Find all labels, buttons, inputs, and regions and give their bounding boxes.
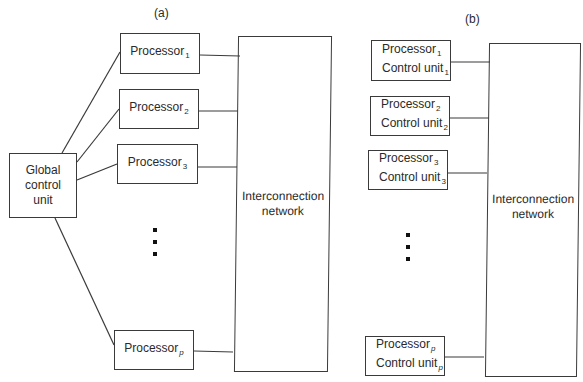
processor-label: Processor3 bbox=[128, 155, 187, 174]
processor-p-box: Processorp bbox=[114, 330, 194, 370]
control-unit-label: Control unit1 bbox=[382, 61, 449, 80]
processor-2-box: Processor2 bbox=[119, 89, 199, 129]
panel-a-caption: (a) bbox=[154, 6, 169, 20]
processor-label: Processorp bbox=[124, 341, 183, 360]
global-control-line2: control bbox=[25, 178, 61, 193]
interconnection-network-b: Interconnection network bbox=[485, 43, 581, 377]
network-label: Interconnection network bbox=[237, 189, 329, 219]
control-unit-label: Control unit2 bbox=[381, 116, 448, 135]
processor-cu-3-box: Processor3 Control unit3 bbox=[368, 150, 448, 190]
global-control-line3: unit bbox=[33, 193, 52, 208]
global-control-unit: Global control unit bbox=[9, 153, 77, 218]
network-label-line1: Interconnection bbox=[488, 192, 578, 207]
ellipsis-dots bbox=[406, 233, 410, 269]
network-label: Interconnection network bbox=[488, 192, 578, 222]
processor-label: Processor2 bbox=[381, 97, 440, 116]
processor-1-box: Processor1 bbox=[120, 33, 200, 74]
panel-b-caption: (b) bbox=[465, 12, 480, 26]
processor-cu-1-box: Processor1 Control unit1 bbox=[371, 40, 451, 81]
processor-3-box: Processor3 bbox=[117, 144, 198, 184]
network-label-line1: Interconnection bbox=[237, 189, 329, 204]
processor-cu-2-box: Processor2 Control unit2 bbox=[370, 96, 450, 136]
processor-label: Processor1 bbox=[130, 44, 189, 63]
processor-label: Processorp bbox=[376, 337, 435, 356]
processor-label: Processor1 bbox=[382, 42, 441, 61]
processor-label: Processor2 bbox=[129, 100, 188, 119]
network-label-line2: network bbox=[237, 204, 329, 219]
control-unit-label: Control unitp bbox=[376, 356, 443, 375]
interconnection-network-a: Interconnection network bbox=[234, 36, 332, 372]
processor-label: Processor3 bbox=[379, 151, 438, 170]
global-control-line1: Global bbox=[26, 163, 61, 178]
ellipsis-dots bbox=[153, 228, 157, 264]
control-unit-label: Control unit3 bbox=[379, 170, 446, 189]
processor-cu-p-box: Processorp Control unitp bbox=[365, 336, 445, 376]
network-label-line2: network bbox=[488, 207, 578, 222]
